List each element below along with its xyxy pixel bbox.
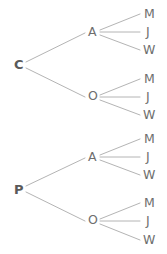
tree-leaf-c-a-m: M (144, 8, 155, 21)
edge-a1-to-m (100, 14, 140, 30)
tree-node-root-c: C (14, 58, 24, 71)
edge-o1-to-w (100, 100, 140, 115)
tree-node-p-a: A (88, 151, 97, 164)
edge-p-to-o (26, 192, 85, 221)
edge-a2-to-w (100, 160, 140, 175)
tree-node-root-p: P (14, 183, 24, 196)
tree-leaf-c-o-m: M (144, 73, 155, 86)
edge-c-to-a (26, 33, 85, 62)
tree-edges (0, 0, 167, 254)
tree-leaf-c-o-j: J (146, 91, 150, 104)
tree-leaf-c-a-j: J (146, 26, 150, 39)
tree-leaf-p-o-m: M (144, 197, 155, 210)
edge-p-to-a (26, 158, 85, 186)
edge-a1-to-w (100, 35, 140, 50)
edge-c-to-o (26, 68, 85, 97)
edge-o2-to-w (100, 224, 140, 240)
tree-leaf-c-o-w: W (143, 109, 155, 122)
tree-leaf-p-o-j: J (146, 215, 150, 228)
tree-node-c-a: A (88, 26, 97, 39)
tree-node-p-o: O (88, 214, 98, 227)
edge-o1-to-m (100, 79, 140, 95)
tree-leaf-p-a-w: W (143, 169, 155, 182)
tree-diagram: C P A O A O M J W M J W M J W M J W (0, 0, 167, 254)
tree-node-c-o: O (88, 90, 98, 103)
tree-leaf-p-o-w: W (143, 234, 155, 247)
tree-leaf-p-a-m: M (144, 133, 155, 146)
edge-a2-to-m (100, 139, 140, 155)
edge-o2-to-m (100, 203, 140, 219)
tree-leaf-c-a-w: W (143, 44, 155, 57)
tree-leaf-p-a-j: J (146, 151, 150, 164)
